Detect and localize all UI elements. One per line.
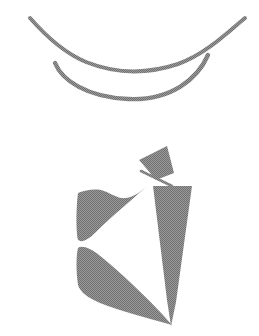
line-art-canvas <box>0 0 259 336</box>
figure-page <box>0 0 259 336</box>
